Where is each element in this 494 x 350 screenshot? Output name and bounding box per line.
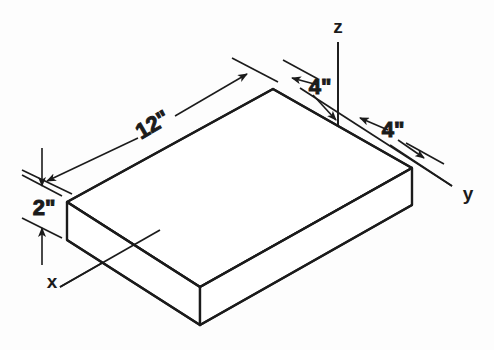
dimension-width-front-arrow-corner [398, 140, 424, 158]
dimension-label-4in-back: 4" [309, 74, 332, 99]
block-solid [67, 89, 412, 325]
dimension-length-extension-tick-front [22, 170, 72, 194]
technical-drawing-canvas: 12" 2" 4" [0, 0, 494, 350]
dimension-label-2in: 2" [33, 195, 56, 220]
isometric-block-figure: 12" 2" 4" [0, 0, 494, 350]
axis-label-y: y [463, 183, 474, 204]
axis-label-x: x [47, 271, 58, 292]
dimension-label-4in-front: 4" [382, 117, 405, 142]
axis-label-z: z [333, 16, 343, 37]
dimension-thickness-2in: 2" [22, 148, 62, 265]
